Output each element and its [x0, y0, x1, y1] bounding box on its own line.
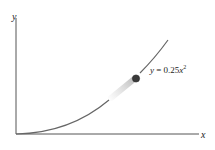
motion-blur-trail — [111, 80, 133, 98]
equation-exponent: 2 — [183, 64, 186, 70]
y-axis-label: y — [11, 11, 17, 22]
equation-coef: = 0.25 — [154, 65, 180, 75]
ball-particle — [132, 75, 139, 82]
x-axis-label: x — [200, 129, 206, 140]
equation-label: y = 0.25x2 — [149, 64, 186, 75]
parabola-curve-lower — [16, 100, 109, 134]
parabola-diagram: y x y = 0.25x2 — [0, 0, 215, 150]
diagram-svg: y x y = 0.25x2 — [0, 0, 215, 150]
